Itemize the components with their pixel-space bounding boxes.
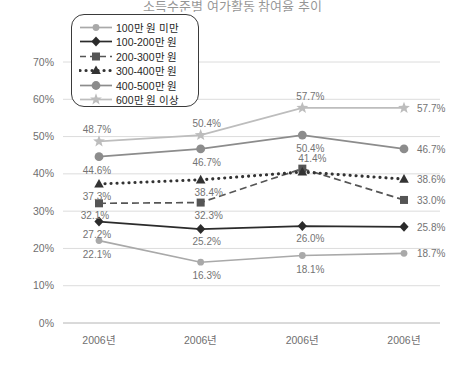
data-point-square: [400, 196, 408, 204]
data-label: 18.7%: [417, 248, 445, 259]
x-axis-tick-label: 2006년: [82, 334, 115, 346]
y-axis-tick-label: 10%: [33, 279, 54, 291]
chart-container: 소득수준별 여가활동 참여율 추이 0%10%20%30%40%50%60%70…: [0, 0, 465, 365]
data-label: 32.3%: [194, 210, 222, 221]
data-label: 50.4%: [296, 143, 324, 154]
legend-item-label: 100만 원 미만: [116, 20, 179, 35]
data-point-circle-small: [401, 250, 408, 257]
data-point-circle-small: [93, 24, 100, 31]
data-label: 38.6%: [417, 174, 445, 185]
data-point-square: [92, 52, 100, 60]
legend-item-4[interactable]: 300-400만 원: [79, 63, 177, 78]
y-axis-tick-label: 70%: [33, 56, 54, 68]
y-axis-tick-label: 20%: [33, 242, 54, 254]
y-axis-tick-label: 50%: [33, 130, 54, 142]
data-point-circle: [92, 81, 101, 90]
legend-item-3[interactable]: 200-300만 원: [79, 49, 177, 64]
data-point-diamond: [298, 221, 307, 231]
legend-marker-triangle-icon: [79, 63, 113, 78]
legend-marker-circle-small-icon: [79, 20, 113, 35]
legend-item-1[interactable]: 100만 원 미만: [79, 20, 179, 35]
data-label: 46.7%: [417, 144, 445, 155]
series-1: 22.1%16.3%18.1%18.7%: [83, 237, 446, 281]
legend-marker-circle-icon: [79, 78, 113, 93]
y-axis-tick-label: 60%: [33, 93, 54, 105]
data-label: 18.1%: [296, 264, 324, 275]
data-point-star: [296, 102, 308, 113]
data-point-star: [195, 129, 207, 140]
data-label: 57.7%: [296, 91, 324, 102]
legend: 100만 원 미만100-200만 원200-300만 원300-400만 원4…: [71, 14, 199, 107]
data-point-square: [197, 199, 205, 207]
data-point-circle: [298, 131, 307, 140]
legend-marker-star-icon: [79, 92, 113, 107]
data-point-diamond: [196, 224, 205, 234]
legend-item-5[interactable]: 400-500만 원: [79, 78, 177, 93]
legend-marker-square-icon: [79, 49, 113, 64]
data-point-star: [90, 93, 102, 104]
data-label: 41.4%: [298, 153, 326, 164]
data-label: 25.2%: [192, 236, 220, 247]
data-label: 33.0%: [417, 195, 445, 206]
data-point-circle: [95, 152, 104, 161]
x-axis-labels: 2006년2006년2006년2006년: [82, 334, 420, 346]
series-line: [99, 241, 404, 263]
x-axis-tick-label: 2006년: [286, 334, 319, 346]
legend-item-label: 300-400만 원: [116, 63, 177, 78]
data-point-triangle: [196, 175, 206, 184]
data-label: 32.1%: [81, 210, 109, 221]
y-axis-tick-label: 40%: [33, 167, 54, 179]
y-axis-tick-label: 0%: [39, 317, 54, 329]
data-label: 38.4%: [194, 187, 222, 198]
data-label: 37.3%: [83, 191, 111, 202]
x-axis-tick-label: 2006년: [387, 334, 420, 346]
data-point-diamond: [91, 37, 100, 47]
y-axis-tick-label: 30%: [33, 205, 54, 217]
data-label: 26.0%: [296, 233, 324, 244]
x-axis-tick-label: 2006년: [184, 334, 217, 346]
data-point-circle: [400, 144, 409, 153]
data-point-circle-small: [299, 252, 306, 259]
chart-plot-area: 0%10%20%30%40%50%60%70%2006년2006년2006년20…: [0, 0, 465, 365]
series-group: 22.1%16.3%18.1%18.7%27.2%25.2%26.0%25.8%…: [81, 91, 446, 281]
series-line: [99, 222, 404, 229]
data-label: 50.4%: [192, 118, 220, 129]
data-point-circle-small: [197, 259, 204, 266]
data-label: 27.2%: [83, 229, 111, 240]
legend-item-label: 400-500만 원: [116, 78, 177, 93]
data-label: 48.7%: [83, 124, 111, 135]
legend-item-6[interactable]: 600만 원 이상: [79, 92, 179, 107]
data-point-diamond: [399, 222, 408, 232]
data-point-circle: [196, 144, 205, 153]
data-label: 25.8%: [417, 222, 445, 233]
legend-marker-diamond-icon: [79, 34, 113, 49]
data-label: 22.1%: [83, 249, 111, 260]
legend-item-label: 600만 원 이상: [116, 92, 179, 107]
legend-item-label: 200-300만 원: [116, 49, 177, 64]
data-label: 16.3%: [192, 270, 220, 281]
data-point-star: [398, 102, 410, 113]
series-2: 27.2%25.2%26.0%25.8%: [83, 217, 446, 247]
series-5: 44.6%46.7%50.4%46.7%: [83, 131, 446, 176]
legend-item-2[interactable]: 100-200만 원: [79, 34, 177, 49]
data-point-triangle: [94, 179, 104, 188]
data-label: 44.6%: [83, 165, 111, 176]
legend-item-label: 100-200만 원: [116, 34, 177, 49]
data-point-triangle: [399, 174, 409, 183]
data-label: 57.7%: [417, 103, 445, 114]
data-label: 46.7%: [192, 157, 220, 168]
